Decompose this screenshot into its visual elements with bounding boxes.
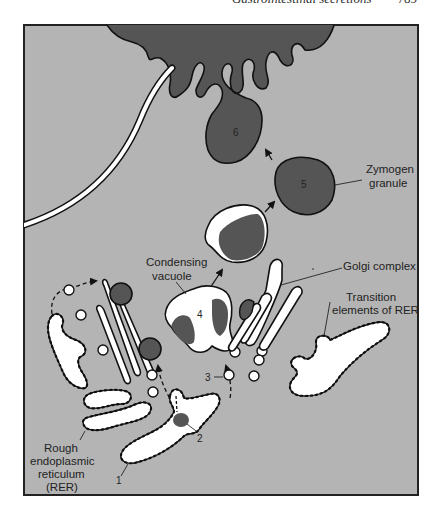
rer-label-line3: reticulum — [38, 468, 85, 480]
step-3-label: 3 — [205, 372, 211, 383]
zymogen-granule-label-line1: Zymogen — [366, 163, 414, 175]
golgi-complex-label: Golgi complex — [343, 260, 416, 272]
rer-label-line4: (RER) — [46, 481, 78, 493]
zymogen-granule-label-line2: granule — [369, 177, 407, 189]
condensing-vacuole-label-line1: Condensing — [146, 256, 207, 268]
rer-label-line1: Rough — [44, 442, 78, 454]
condensing-vacuole-label-line2: vacuole — [152, 270, 192, 282]
transition-label-line2: elements of RER — [332, 304, 419, 316]
step-1-label: 1 — [116, 475, 122, 486]
step-5-label: 5 — [301, 179, 307, 190]
step-4-label: 4 — [197, 309, 203, 320]
step-6-label: 6 — [233, 127, 239, 138]
rer-label-line2: endoplasmic — [30, 455, 95, 467]
transition-label-line1: Transition — [346, 291, 396, 303]
step-2-label: 2 — [197, 433, 203, 444]
zymogen-secretion-diagram: 6 5 Zymogen granule 4 Condensing vacuole — [0, 0, 437, 518]
